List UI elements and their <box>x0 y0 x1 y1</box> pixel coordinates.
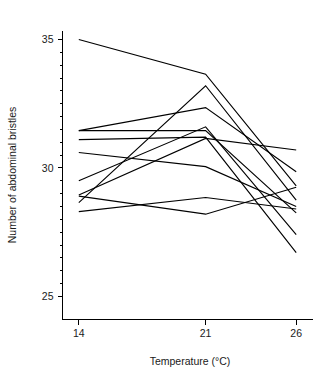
x-tick-label: 26 <box>290 327 302 339</box>
y-tick-label: 30 <box>42 162 54 174</box>
line-1 <box>79 39 296 185</box>
line-3 <box>79 108 296 172</box>
line-6 <box>79 137 296 253</box>
data-series-group <box>79 39 296 252</box>
line-chart-plot: 253035 142126 Number of abdominal bristl… <box>0 0 328 378</box>
x-axis-title: Temperature (°C) <box>150 355 231 367</box>
line-10 <box>79 197 296 211</box>
x-tick-labels: 142126 <box>73 327 302 339</box>
y-tick-label: 25 <box>42 290 54 302</box>
y-axis-title: Number of abdominal bristles <box>6 107 18 244</box>
line-9 <box>79 187 296 214</box>
y-axis-ticks <box>58 39 63 296</box>
x-tick-label: 21 <box>200 327 212 339</box>
line-8 <box>79 153 296 207</box>
x-tick-label: 14 <box>73 327 85 339</box>
axes-group <box>63 31 313 320</box>
reaction-norm-figure: 253035 142126 Number of abdominal bristl… <box>0 0 328 378</box>
line-2 <box>79 86 296 203</box>
y-tick-label: 35 <box>42 33 54 45</box>
x-axis-ticks <box>79 320 296 325</box>
y-tick-labels: 253035 <box>42 33 54 302</box>
